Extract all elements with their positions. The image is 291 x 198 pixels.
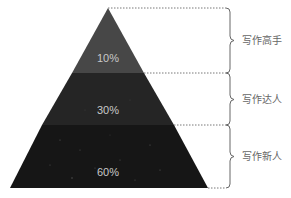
brace-icon-top bbox=[226, 8, 234, 73]
tier-bottom bbox=[10, 125, 208, 188]
brace-icons bbox=[226, 8, 234, 188]
tier-middle-label: 写作达人 bbox=[242, 94, 282, 105]
tier-top-label: 写作高手 bbox=[242, 34, 282, 46]
brace-icon-bottom bbox=[226, 125, 234, 188]
tier-bottom-label: 写作新人 bbox=[242, 150, 282, 162]
tier-top-percent: 10% bbox=[97, 52, 119, 64]
pyramid-diagram: 10% 30% 60% 写作高手 写作达人 写作新人 bbox=[0, 0, 291, 198]
tier-middle-percent: 30% bbox=[97, 104, 119, 116]
brace-icon-middle bbox=[226, 73, 234, 125]
tier-middle bbox=[42, 73, 174, 125]
tier-bottom-percent: 60% bbox=[97, 166, 119, 178]
